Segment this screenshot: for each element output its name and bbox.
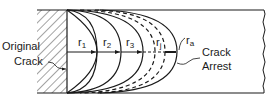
original-crack-region bbox=[37, 10, 67, 93]
label-r3: r3 bbox=[126, 36, 135, 50]
crack-arrest-label-2: Arrest bbox=[202, 60, 231, 72]
label-r2: r2 bbox=[103, 36, 112, 50]
original-crack-label-1: Original bbox=[2, 40, 40, 52]
label-ra: ra bbox=[186, 34, 195, 48]
break-line bbox=[263, 10, 265, 93]
ra-leader bbox=[179, 38, 185, 50]
crack-diagram: r1 r2 r3 rj ra Original Crack Crack Arre… bbox=[0, 0, 275, 111]
original-crack-label-2: Crack bbox=[14, 55, 43, 67]
label-rj: rj bbox=[156, 36, 162, 50]
label-r1: r1 bbox=[78, 36, 87, 50]
crack-arrest-leader bbox=[177, 58, 200, 64]
crack-arrest-label-1: Crack bbox=[202, 46, 231, 58]
